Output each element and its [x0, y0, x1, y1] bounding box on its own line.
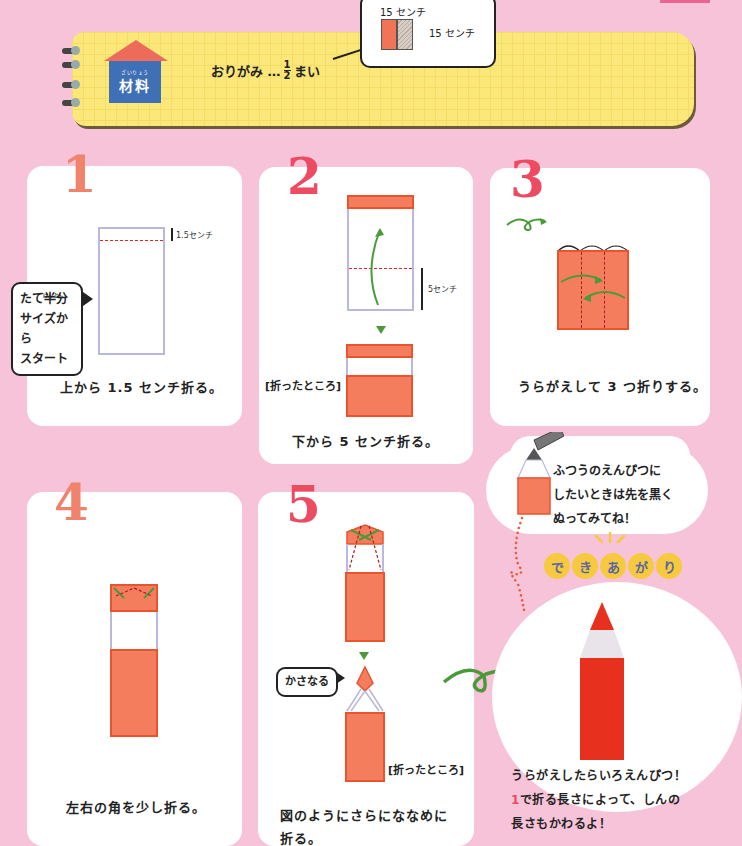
next-arrow-icon [376, 326, 386, 334]
fraction-denominator: 2 [284, 71, 291, 81]
step-2-result-middle [346, 358, 413, 376]
step-1-start-bubble: はんぶん たて半分 サイズから スタート [11, 282, 83, 376]
fold-thirds-arrows-icon [557, 270, 629, 310]
measure-bracket-icon [171, 228, 173, 241]
finished-line-3: 長さもかわるよ！ [511, 812, 686, 836]
step-2-result-bottom [346, 375, 413, 417]
step-4-number: 4 [54, 478, 89, 528]
materials-item-suffix: まい [294, 61, 320, 80]
step-5-number: 5 [286, 480, 321, 530]
step-4-caption: 左右の角を少し折る。 [66, 797, 206, 816]
paper-size-callout: 15 センチ 15 センチ [360, 0, 496, 68]
tip-line: したいときは先を黒く [553, 483, 673, 507]
bubble-line: スタート [20, 349, 74, 369]
finished-label: で き あ が り [544, 553, 682, 579]
finished-label-char: あ [600, 553, 626, 579]
materials-item-prefix: おりがみ … [211, 61, 281, 80]
binder-ring-icon [62, 100, 76, 106]
finished-line-1: うらがえしたらいろえんぴつ！ [511, 764, 686, 788]
house-roof-icon [104, 40, 168, 61]
step-5-result-tip [345, 665, 385, 715]
fold-line-icon [100, 240, 163, 241]
paper-height-label: 15 センチ [429, 25, 475, 40]
step-reference-highlight: 1 [511, 793, 520, 807]
binder-ring-icon [62, 62, 76, 68]
measure-bracket-icon [421, 268, 423, 310]
next-arrow-icon [359, 652, 369, 660]
step-4-middle [110, 612, 158, 650]
dotted-trail-icon [508, 516, 528, 611]
step-1-measure-label: 1.5センチ [176, 229, 213, 240]
fraction-numerator: 1 [284, 60, 291, 70]
binder-ring-icon [62, 82, 76, 88]
sparkle-icon [590, 532, 630, 546]
tip-line: ぬってみてね！ [553, 507, 673, 531]
step-1-paper-diagram [98, 227, 165, 355]
materials-title: 材料 [109, 75, 161, 95]
flip-over-arrow-icon [505, 215, 553, 233]
paper-half-hatched-icon [397, 19, 413, 50]
materials-badge: ざいりょう 材料 [109, 61, 161, 103]
step-2-folded-top [347, 195, 414, 209]
step-4-bottom [110, 649, 158, 737]
finished-description: うらがえしたらいろえんぴつ！ 1で折る長さによって、しんの 長さもかわるよ！ [511, 764, 686, 836]
step-2-measure-label: 5センチ [428, 283, 457, 294]
paper-half-colored-icon [381, 19, 397, 50]
step-5-folded-label: [折ったところ] [388, 761, 464, 777]
materials-item: おりがみ … 1 2 まい [211, 60, 320, 81]
step-2-caption: 下から 5 センチ折る。 [292, 431, 439, 450]
step-5-caption-line2: 折る。 [280, 828, 322, 846]
finished-pencil-icon [576, 600, 628, 762]
bubble-ruby: はんぶん [43, 285, 63, 305]
bubble-pointer-icon [83, 292, 93, 306]
step-5-top-diagram [345, 524, 385, 574]
finished-label-char: り [656, 553, 682, 579]
binder-ring-icon [62, 48, 76, 54]
step-1-number: 1 [62, 150, 97, 200]
bubble-pointer-icon [336, 672, 345, 684]
finished-label-char: き [572, 553, 598, 579]
step-5-caption-line1: 図のようにさらにななめに [280, 805, 448, 824]
step-5-result-body [345, 712, 385, 782]
step-5-bottom [345, 572, 385, 642]
tip-text: ふつうのえんぴつに したいときは先を黒く ぬってみてね！ [553, 459, 673, 531]
tip-line: ふつうのえんぴつに [553, 459, 673, 483]
top-accent-strip [660, 0, 710, 3]
fold-up-arrow-icon [360, 225, 390, 310]
step-1-caption: 上から 1.5 センチ折る。 [60, 377, 223, 396]
corner-fold-arrows-icon [112, 586, 156, 602]
finished-label-char: が [628, 553, 654, 579]
step-2-result-top [346, 344, 413, 358]
materials-title-ruby: ざいりょう [109, 68, 161, 75]
bubble-line: サイズから [20, 309, 74, 349]
step-3-number: 3 [510, 155, 545, 205]
paper-width-label: 15 センチ [380, 4, 426, 19]
step-3-caption: うらがえして 3 つ折りする。 [518, 376, 707, 395]
overlap-bubble: かさなる [276, 667, 338, 697]
step-2-number: 2 [287, 152, 322, 202]
fraction: 1 2 [284, 60, 291, 81]
finished-label-char: で [544, 553, 570, 579]
finished-line-2: で折る長さによって、しんの [520, 793, 681, 807]
step-2-folded-label: [折ったところ] [265, 377, 341, 393]
